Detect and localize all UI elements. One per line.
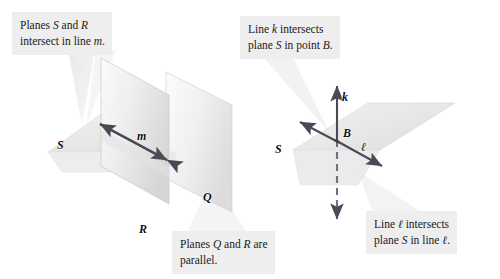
callout-tail-line-ell xyxy=(358,171,420,211)
callout-line-k: Line k intersects plane S in point B. xyxy=(240,16,340,59)
plane-S-right-label: S xyxy=(275,142,282,157)
plane-S-left-skirt xyxy=(169,152,176,166)
callout-tail-planes-sr xyxy=(68,50,95,125)
callout-line-ell: Line ℓ intersects plane S in line ℓ. xyxy=(366,211,457,254)
plane-Q-label: Q xyxy=(203,190,212,205)
callout-line-ell-line1: Line ℓ intersects xyxy=(374,216,450,232)
callout-line-k-line2: plane S in point B. xyxy=(248,37,333,53)
point-B-marker xyxy=(335,139,338,142)
callout-line-k-line1: Line k intersects xyxy=(248,21,333,37)
plane-S-left-label: S xyxy=(57,138,64,153)
line-ell-label: ℓ xyxy=(361,140,366,155)
callout-planes-sr: Planes S and R intersect in line m. xyxy=(12,12,112,55)
callout-planes-qr-line2: parallel. xyxy=(180,252,268,268)
callout-tail-line-k xyxy=(262,56,329,132)
line-m-label: m xyxy=(137,129,146,144)
point-B-label: B xyxy=(343,126,351,141)
line-k-label: k xyxy=(342,90,348,105)
callout-planes-sr-line1: Planes S and R xyxy=(20,17,105,33)
callout-line-ell-line2: plane S in line ℓ. xyxy=(374,232,450,248)
callout-planes-sr-line2: intersect in line m. xyxy=(20,33,105,49)
plane-Q xyxy=(166,72,232,212)
plane-R-label: R xyxy=(139,222,147,237)
callout-planes-qr-line1: Planes Q and R are xyxy=(180,236,268,252)
callout-planes-qr: Planes Q and R are parallel. xyxy=(172,231,275,274)
figure-root: S m Q R S k B ℓ Planes S and R intersect… xyxy=(0,0,500,279)
